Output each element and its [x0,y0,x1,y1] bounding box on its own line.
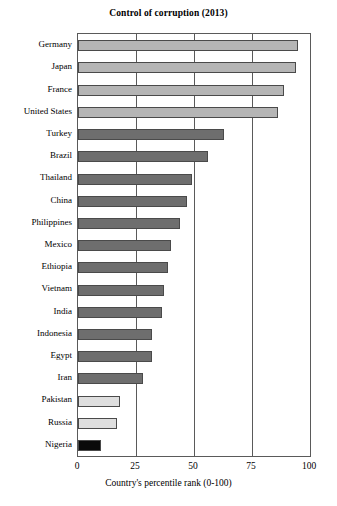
bar-row[interactable] [78,145,310,169]
bar-united-states[interactable] [78,107,278,118]
bar-turkey[interactable] [78,129,224,140]
bar-row[interactable] [78,389,310,413]
bar-thailand[interactable] [78,174,192,185]
y-axis-label-iran: Iran [0,372,72,382]
y-axis-label-egypt: Egypt [0,350,72,360]
bar-row[interactable] [78,301,310,325]
bar-russia[interactable] [78,418,117,429]
bar-rows [78,34,310,456]
chart-title: Control of corruption (2013) [0,8,337,18]
bar-row[interactable] [78,123,310,147]
plot-area [77,33,311,457]
x-tick-25: 25 [120,461,150,471]
y-axis-label-brazil: Brazil [0,150,72,160]
bar-row[interactable] [78,412,310,436]
bar-egypt[interactable] [78,351,152,362]
y-axis-label-united-states: United States [0,106,72,116]
x-tick-0: 0 [62,461,92,471]
bar-row[interactable] [78,434,310,458]
bar-philippines[interactable] [78,218,180,229]
bar-row[interactable] [78,278,310,302]
bar-brazil[interactable] [78,151,208,162]
bar-nigeria[interactable] [78,440,101,451]
bar-japan[interactable] [78,62,296,73]
chart-figure: Control of corruption (2013) GermanyJapa… [0,0,337,506]
y-axis-label-turkey: Turkey [0,128,72,138]
bar-indonesia[interactable] [78,329,152,340]
bar-mexico[interactable] [78,240,171,251]
bar-france[interactable] [78,85,284,96]
bar-row[interactable] [78,189,310,213]
bar-row[interactable] [78,212,310,236]
y-axis-label-indonesia: Indonesia [0,328,72,338]
y-axis-label-russia: Russia [0,417,72,427]
bar-india[interactable] [78,307,162,318]
bar-row[interactable] [78,234,310,258]
y-axis-label-japan: Japan [0,61,72,71]
y-axis-label-germany: Germany [0,39,72,49]
bar-row[interactable] [78,34,310,58]
bar-iran[interactable] [78,373,143,384]
y-axis-label-philippines: Philippines [0,217,72,227]
bar-row[interactable] [78,56,310,80]
bar-row[interactable] [78,323,310,347]
y-axis-label-india: India [0,306,72,316]
y-axis-label-france: France [0,84,72,94]
bar-row[interactable] [78,256,310,280]
y-axis-label-ethiopia: Ethiopia [0,261,72,271]
bar-germany[interactable] [78,40,298,51]
y-axis-label-pakistan: Pakistan [0,394,72,404]
bar-vietnam[interactable] [78,285,164,296]
bar-row[interactable] [78,167,310,191]
y-axis-label-nigeria: Nigeria [0,439,72,449]
bar-row[interactable] [78,101,310,125]
y-axis-label-vietnam: Vietnam [0,283,72,293]
y-axis-label-thailand: Thailand [0,172,72,182]
x-axis-title: Country's percentile rank (0-100) [0,478,337,488]
x-tick-75: 75 [236,461,266,471]
bar-pakistan[interactable] [78,396,120,407]
bar-row[interactable] [78,345,310,369]
y-axis-label-china: China [0,195,72,205]
bar-ethiopia[interactable] [78,262,168,273]
y-axis-label-mexico: Mexico [0,239,72,249]
x-tick-50: 50 [178,461,208,471]
x-tick-100: 100 [294,461,324,471]
bar-row[interactable] [78,78,310,102]
bar-china[interactable] [78,196,187,207]
bar-row[interactable] [78,367,310,391]
